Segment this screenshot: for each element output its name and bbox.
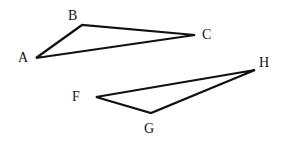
triangle-abc (36, 25, 195, 58)
triangles-diagram: A B C F G H (0, 0, 283, 144)
triangle-fgh (96, 70, 255, 113)
label-h: H (259, 55, 269, 70)
label-g: G (144, 121, 154, 136)
label-c: C (202, 27, 211, 42)
label-b: B (68, 8, 77, 23)
label-a: A (18, 50, 29, 65)
label-f: F (72, 89, 80, 104)
